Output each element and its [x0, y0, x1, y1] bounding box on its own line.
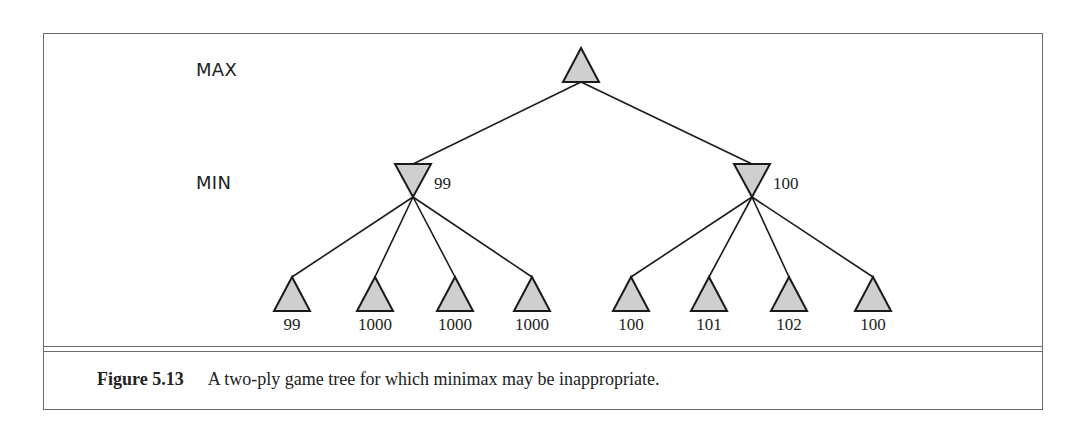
leaf-value: 100	[618, 315, 644, 334]
leaf-node	[855, 277, 891, 311]
leaf-value: 101	[696, 315, 722, 334]
caption-text: A two-ply game tree for which minimax ma…	[208, 369, 660, 389]
tree-edge	[581, 82, 752, 164]
leaf-node	[514, 277, 550, 311]
min-node-value: 100	[773, 174, 799, 193]
max-node-root	[563, 48, 599, 82]
leaf-value: 99	[284, 315, 301, 334]
leaf-node	[274, 277, 310, 311]
tree-edge	[413, 197, 455, 277]
leaf-node	[613, 277, 649, 311]
leaf-value: 102	[776, 315, 802, 334]
min-node-1	[395, 164, 431, 197]
figure-number: Figure 5.13	[97, 369, 184, 389]
leaf-node	[771, 277, 807, 311]
tree-edge	[413, 197, 532, 277]
min-node-value: 99	[434, 174, 451, 193]
leaf-value: 1000	[438, 315, 472, 334]
tree-edge	[709, 197, 752, 277]
leaf-node	[691, 277, 727, 311]
leaf-node	[357, 277, 393, 311]
tree-edge	[631, 197, 752, 277]
leaf-value: 100	[860, 315, 886, 334]
leaf-node	[437, 277, 473, 311]
leaf-value: 1000	[358, 315, 392, 334]
min-node-2	[734, 164, 770, 197]
game-tree: 9999100010001000100100101102100	[0, 0, 1087, 427]
figure-caption: Figure 5.13A two-ply game tree for which…	[97, 369, 660, 390]
tree-edge	[413, 82, 581, 164]
leaf-value: 1000	[515, 315, 549, 334]
